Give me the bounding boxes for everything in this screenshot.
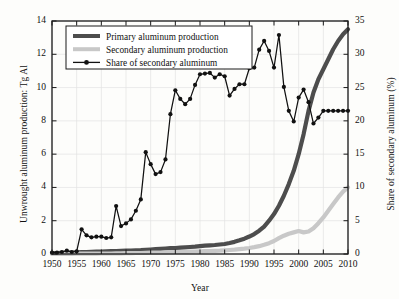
legend-label: Primary aluminum production (106, 32, 219, 42)
plot-area: Primary aluminum productionSecondary alu… (0, 0, 399, 299)
chart-legend: Primary aluminum productionSecondary alu… (66, 26, 252, 69)
legend-label: Share of secondary aluminum (106, 58, 218, 68)
chart-figure: Unwrought aluminum production: Tg Al Sha… (0, 0, 399, 299)
legend-label: Secondary aluminum production (106, 45, 228, 55)
